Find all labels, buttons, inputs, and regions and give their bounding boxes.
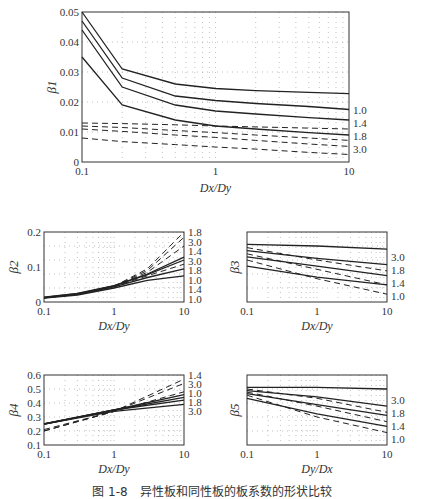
y-axis-label: β3 [227, 260, 242, 274]
x-tick-label: 1 [111, 305, 117, 317]
series-line [44, 269, 184, 298]
series-line [82, 123, 349, 129]
beta2-panel: 0.111000.10.2β2Dx/Dy1.83.01.43.01.81.01.… [6, 226, 202, 333]
y-tick-label: 0.6 [27, 369, 41, 381]
series-line [82, 21, 349, 110]
x-tick-label: 10 [344, 165, 356, 177]
x-tick-label: 10 [382, 305, 394, 317]
x-tick-label: 1 [111, 448, 117, 460]
series-end-label: 3.0 [391, 394, 405, 406]
x-tick-label: 1 [314, 305, 320, 317]
y-tick-label: 0.01 [60, 126, 79, 138]
chart-figure: 0.111000.010.020.030.040.05β1Dx/Dy1.01.4… [0, 0, 424, 499]
beta5-panel: 0.1110β5Dy/Dx3.01.81.41.0 [227, 375, 405, 476]
y-tick-label: 0 [36, 296, 42, 308]
series-end-label: 3.0 [391, 251, 405, 263]
x-axis-label: Dy/Dx [300, 462, 333, 476]
series-end-label: 1.8 [391, 407, 405, 419]
y-tick-label: 0.02 [60, 96, 79, 108]
series-end-label: 1.4 [391, 420, 405, 432]
series-end-label: 1.0 [353, 104, 367, 116]
x-axis-label: Dx/Dy [199, 181, 232, 195]
figure-caption: 图 1-8 异性板和同性板的板系数的形状比较 [0, 482, 424, 499]
series-end-label: 1.0 [391, 290, 405, 302]
y-tick-label: 0.4 [27, 397, 41, 409]
y-tick-label: 0.1 [27, 261, 41, 273]
y-tick-label: 0.3 [27, 411, 41, 423]
x-tick-label: 0.1 [240, 305, 254, 317]
y-tick-label: 0.03 [60, 66, 80, 78]
beta4-panel: 0.11100.10.20.30.40.50.6β4Dx/Dy1.43.01.0… [6, 369, 202, 476]
series-end-label: 3.0 [188, 405, 202, 417]
series-end-label: 1.8 [391, 264, 405, 276]
series-line [44, 404, 184, 424]
y-tick-label: 0.1 [27, 439, 41, 451]
y-axis-label: β5 [227, 403, 242, 417]
y-tick-label: 0.5 [27, 383, 41, 395]
y-tick-label: 0.04 [60, 36, 80, 48]
x-axis-label: Dx/Dy [300, 319, 333, 333]
series-end-label: 1.0 [188, 293, 202, 305]
beta1-panel: 0.111000.010.020.030.040.05β1Dx/Dy1.01.4… [44, 6, 367, 195]
x-tick-label: 1 [213, 165, 219, 177]
x-tick-label: 0.1 [240, 448, 254, 460]
y-tick-label: 0.2 [27, 425, 41, 437]
x-axis-label: Dx/Dy [97, 462, 130, 476]
y-axis-label: β1 [44, 81, 59, 95]
x-tick-label: 10 [179, 448, 191, 460]
y-tick-label: 0 [74, 156, 80, 168]
y-tick-label: 0.05 [60, 6, 80, 18]
series-end-label: 1.0 [391, 433, 405, 445]
x-tick-label: 10 [179, 305, 191, 317]
series-end-label: 3.0 [353, 143, 367, 155]
y-axis-label: β4 [6, 403, 21, 417]
y-axis-label: β2 [6, 260, 21, 274]
x-tick-label: 1 [314, 448, 320, 460]
x-tick-label: 10 [382, 448, 394, 460]
series-end-label: 1.8 [353, 130, 367, 142]
series-end-label: 1.4 [391, 277, 405, 289]
beta3-panel: 0.1110β3Dx/Dy3.01.81.41.0 [227, 232, 405, 333]
y-tick-label: 0.2 [27, 226, 41, 238]
x-axis-label: Dx/Dy [97, 319, 130, 333]
series-end-label: 1.4 [353, 117, 367, 129]
series-line [247, 244, 387, 249]
